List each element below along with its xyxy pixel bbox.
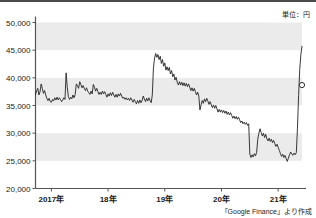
stock-price-chart-figure: 単位：円 50,00045,00040,00035,00030,00025,00… [0, 0, 316, 218]
y-tick-label: 25,000 [6, 157, 31, 166]
plot-band-2 [36, 133, 303, 161]
y-tick-label: 30,000 [6, 129, 31, 138]
x-tick-label: 18年 [100, 194, 117, 204]
y-tick-label: 45,000 [6, 46, 31, 55]
line-chart-canvas: 50,00045,00040,00035,00030,00025,00020,0… [0, 0, 316, 218]
x-tick-label: 21年 [270, 194, 287, 204]
final-value-marker [299, 82, 304, 87]
plot-band-0 [36, 23, 303, 51]
y-tick-label: 35,000 [6, 102, 31, 111]
y-tick-label: 50,000 [6, 19, 31, 28]
source-attribution-label: 「Google Finance」より作成 [221, 206, 312, 216]
x-tick-label: 2017年 [38, 194, 64, 204]
x-tick-label: 19年 [156, 194, 173, 204]
y-tick-label: 40,000 [6, 74, 31, 83]
x-tick-label: 20年 [213, 194, 230, 204]
y-tick-label: 20,000 [6, 185, 31, 194]
